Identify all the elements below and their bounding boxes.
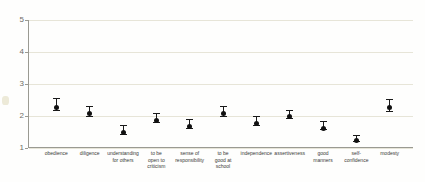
error-bar-cap-upper bbox=[86, 106, 93, 107]
marker bbox=[121, 130, 126, 135]
error-bar-cap-upper bbox=[53, 98, 60, 99]
chart-container: 12345 obediencediligenceunderstanding fo… bbox=[0, 0, 425, 182]
y-tick-mark bbox=[25, 84, 28, 85]
gridline-5 bbox=[29, 20, 413, 21]
error-bar-cap-upper bbox=[120, 125, 127, 126]
error-bar-cap-lower bbox=[86, 116, 93, 117]
gridline-4 bbox=[29, 52, 413, 53]
error-bar-cap-upper bbox=[286, 110, 293, 111]
error-bar-cap-upper bbox=[220, 106, 227, 107]
marker bbox=[254, 121, 259, 126]
error-bar-cap-lower bbox=[220, 116, 227, 117]
error-bar-cap-upper bbox=[186, 119, 193, 120]
error-bar-cap-upper bbox=[153, 113, 160, 114]
scan-artifact bbox=[2, 96, 9, 105]
y-tick-mark bbox=[25, 116, 28, 117]
marker bbox=[287, 114, 292, 119]
y-tick-label: 1 bbox=[20, 144, 24, 152]
error-bar-cap-upper bbox=[386, 99, 393, 100]
error-bar-cap-upper bbox=[253, 116, 260, 117]
y-tick-label: 5 bbox=[20, 16, 24, 24]
y-tick-mark bbox=[25, 20, 28, 21]
gridline-3 bbox=[29, 84, 413, 85]
marker bbox=[387, 105, 392, 110]
plot-area: 12345 bbox=[28, 20, 413, 148]
marker bbox=[354, 138, 359, 143]
error-bar-cap-lower bbox=[386, 111, 393, 112]
error-bar-cap-upper bbox=[320, 121, 327, 122]
y-tick-label: 4 bbox=[20, 48, 24, 56]
x-axis-label: modesty bbox=[370, 150, 410, 157]
marker bbox=[54, 105, 59, 110]
y-tick-mark bbox=[25, 148, 28, 149]
marker bbox=[221, 111, 226, 116]
error-bar-cap-lower bbox=[53, 110, 60, 111]
error-bar-cap-upper bbox=[353, 135, 360, 136]
y-tick-label: 3 bbox=[20, 80, 24, 88]
x-axis-labels: obediencediligenceunderstanding for othe… bbox=[28, 150, 413, 180]
marker bbox=[321, 126, 326, 131]
y-tick-label: 2 bbox=[20, 112, 24, 120]
gridline-1 bbox=[29, 148, 413, 149]
y-tick-mark bbox=[25, 52, 28, 53]
